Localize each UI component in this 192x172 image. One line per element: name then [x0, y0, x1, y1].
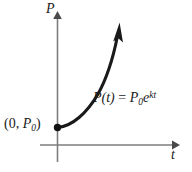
vertical-axis-label: P — [46, 2, 55, 16]
figure-canvas — [0, 0, 192, 172]
initial-point-label-suffix: ) — [36, 116, 41, 131]
equation-coefficient-base: P — [130, 90, 139, 105]
initial-point-label-prefix: (0, — [4, 116, 23, 131]
horizontal-axis-label: t — [171, 148, 175, 162]
initial-point-label-base: P — [23, 116, 32, 131]
vertical-axis — [53, 11, 62, 162]
curve-equation-label: P(t) = P0ekt — [93, 91, 156, 108]
horizontal-axis — [40, 141, 180, 150]
equation-exponent: kt — [149, 90, 156, 100]
exponential-curve — [54, 23, 123, 132]
exponential-growth-figure: P t (0, P0) P(t) = P0ekt — [0, 0, 192, 172]
initial-point-dot — [54, 124, 61, 131]
curve-path — [58, 36, 118, 128]
equation-function-name: P — [93, 90, 102, 105]
equation-argument: (t) — [102, 90, 115, 105]
equation-equals-sign: = — [115, 90, 130, 105]
initial-point-label: (0, P0) — [4, 117, 41, 133]
